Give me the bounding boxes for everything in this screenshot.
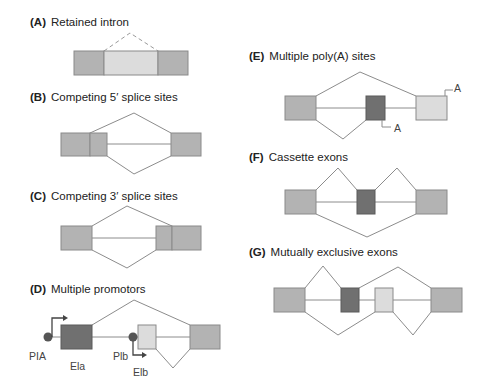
splice-arc-lower: [107, 156, 171, 174]
exon-left: [61, 133, 90, 156]
skip-arc: [316, 214, 416, 237]
exon-1a: [61, 325, 92, 349]
exon-left: [285, 190, 316, 214]
exon-right-extension: [156, 226, 172, 250]
exon-left: [285, 96, 316, 120]
retained-intron: [104, 51, 158, 75]
exon-right: [190, 325, 220, 349]
exon-left: [274, 288, 305, 312]
exon-right: [431, 288, 462, 312]
exclusive-exon-2: [375, 288, 393, 312]
exon-right: [158, 51, 188, 75]
splice-arc-upper-2: [375, 168, 416, 190]
panel-b-diagram: [61, 113, 201, 174]
splice-arc-lower-2: [393, 312, 431, 335]
splice-arc-lower: [316, 120, 366, 139]
splice-arc-upper: [316, 72, 416, 96]
polya-lower-marker: [382, 120, 391, 127]
dashed-splice-arc: [104, 33, 158, 51]
splice-arc-upper-1: [316, 168, 357, 190]
terminal-exon-distal: [416, 96, 447, 120]
exclusive-exon-1: [341, 288, 359, 312]
splicing-diagram: [0, 0, 490, 385]
splice-arc-lower-1: [305, 312, 375, 335]
exon-left-extension: [90, 133, 107, 156]
exon-right: [172, 226, 201, 250]
panel-g-diagram: [274, 266, 462, 335]
splice-arc-upper: [92, 206, 172, 226]
splice-arc-lower: [156, 349, 190, 368]
panel-e-diagram: [285, 72, 453, 139]
exon-right: [171, 133, 201, 156]
panel-d-diagram: [44, 300, 221, 368]
exon-left: [74, 51, 104, 75]
panel-c-diagram: [61, 206, 201, 268]
exon-left: [61, 226, 92, 250]
splice-arc-upper-2: [359, 267, 431, 288]
terminal-exon-proximal: [366, 96, 385, 120]
panel-f-diagram: [285, 168, 447, 237]
promoter-a-dot: [44, 333, 53, 342]
exon-1b: [138, 325, 156, 349]
polya-upper-marker: [445, 90, 453, 96]
splice-arc-upper: [90, 113, 171, 133]
cassette-exon: [357, 190, 375, 214]
splice-arc-lower: [92, 250, 156, 268]
promoter-b-dot: [129, 333, 138, 342]
panel-a-diagram: [74, 33, 188, 75]
splice-arc-upper: [92, 300, 190, 325]
splice-arc-upper-1: [305, 266, 341, 288]
exon-right: [416, 190, 447, 214]
